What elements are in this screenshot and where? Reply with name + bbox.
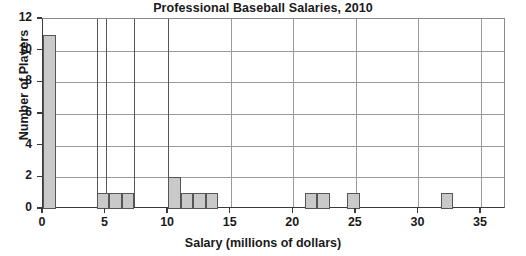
y-axis-label: Number of Players [17,25,31,145]
y-tick-label: 0 [4,200,32,214]
grid-line-horizontal [43,51,504,52]
bin-edge-line [106,19,107,207]
plot-area [42,18,505,208]
histogram-bar [122,193,135,209]
histogram-bar [206,193,219,209]
y-tick-mark [37,49,42,50]
chart-title: Professional Baseball Salaries, 2010 [0,1,526,15]
x-tick-mark [104,208,105,213]
grid-line-horizontal [43,146,504,147]
y-tick-mark [37,144,42,145]
x-axis-label: Salary (millions of dollars) [0,236,526,250]
histogram-bar [317,193,330,209]
x-tick-label: 0 [27,215,57,229]
x-tick-label: 5 [90,215,120,229]
histogram-bar [305,193,318,209]
histogram-bar [347,193,360,209]
x-tick-mark [41,208,42,213]
bin-edge-line [97,19,98,207]
histogram-bar [181,193,194,209]
y-tick-label: 12 [4,10,32,24]
x-tick-mark [417,208,418,213]
grid-line-vertical [356,19,357,207]
x-tick-mark [229,208,230,213]
x-tick-label: 25 [340,215,370,229]
grid-line-vertical [293,19,294,207]
x-tick-label: 10 [152,215,182,229]
histogram-bar [43,35,56,209]
grid-line-horizontal [43,82,504,83]
bin-edge-line [134,19,135,207]
y-tick-mark [37,17,42,18]
grid-line-vertical [418,19,419,207]
grid-line-vertical [231,19,232,207]
y-tick-mark [37,81,42,82]
chart-figure: Professional Baseball Salaries, 2010 024… [0,0,526,256]
histogram-bar [441,193,454,209]
x-tick-label: 35 [465,215,495,229]
x-tick-label: 15 [215,215,245,229]
y-tick-label: 2 [4,168,32,182]
x-tick-label: 30 [402,215,432,229]
y-tick-mark [37,176,42,177]
x-tick-label: 20 [277,215,307,229]
x-tick-mark [354,208,355,213]
histogram-bar [168,177,181,209]
histogram-bar [109,193,122,209]
x-tick-mark [292,208,293,213]
histogram-bar [193,193,206,209]
grid-line-vertical [481,19,482,207]
grid-line-horizontal [43,177,504,178]
x-tick-mark [166,208,167,213]
x-tick-mark [479,208,480,213]
y-tick-mark [37,112,42,113]
histogram-bar [97,193,110,209]
grid-line-horizontal [43,114,504,115]
